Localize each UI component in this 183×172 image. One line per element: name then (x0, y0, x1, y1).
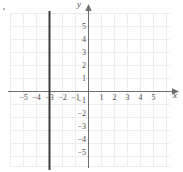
y-axis-label: y (77, 0, 81, 9)
y-tick-neg1: −1 (75, 96, 86, 105)
graph-svg (0, 0, 183, 172)
y-tick-neg4: −4 (75, 135, 86, 144)
x-tick-5: 5 (147, 93, 160, 102)
x-axis-label: x (173, 90, 177, 100)
y-tick-3: 3 (75, 48, 86, 57)
y-tick-4: 4 (75, 35, 86, 44)
y-tick-2: 2 (75, 61, 86, 70)
y-tick-neg3: −3 (75, 122, 86, 131)
x-tick-3: 3 (121, 93, 134, 102)
y-tick-neg5: −5 (75, 148, 86, 157)
y-axis-arrowhead (85, 4, 91, 11)
y-tick-1: 1 (75, 74, 86, 83)
x-tick-1: 1 (95, 93, 108, 102)
x-tick-2: 2 (108, 93, 121, 102)
x-tick-neg2: −2 (56, 93, 69, 102)
coordinate-plane-figure: y x −5 −4 −3 −2 −1 1 2 3 4 5 5 4 3 2 1 −… (0, 0, 183, 172)
grid-horizontal-lines (10, 14, 170, 167)
y-tick-neg2: −2 (75, 109, 86, 118)
y-tick-5: 5 (75, 22, 86, 31)
x-tick-neg5: −5 (17, 93, 30, 102)
x-tick-neg4: −4 (30, 93, 43, 102)
x-tick-4: 4 (134, 93, 147, 102)
x-tick-neg3: −3 (43, 93, 56, 102)
